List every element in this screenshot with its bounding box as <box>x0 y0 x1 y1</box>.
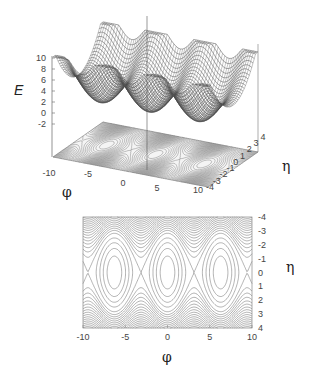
contour-plot: -10-50510 -4-3-2-101234 φ η <box>76 212 294 365</box>
eta-tick-label: 0 <box>233 157 238 167</box>
contour-eta-tick-label: 0 <box>258 268 263 278</box>
contour-eta-tick-label: -3 <box>258 226 266 236</box>
contour-eta-label: η <box>286 259 294 275</box>
phi-tick-label: 10 <box>193 185 203 195</box>
z-tick-label: 10 <box>36 53 46 63</box>
contour-phi-tick-label: -10 <box>76 332 89 342</box>
phi-tick-label: -5 <box>84 169 92 179</box>
z-tick-label: 6 <box>41 75 46 85</box>
contour-eta-tick-label: -4 <box>258 212 266 222</box>
contour-eta-ticks: -4-3-2-101234 <box>258 212 266 333</box>
contour-phi-tick-label: 5 <box>207 332 212 342</box>
contour-phi-tick-label: -5 <box>121 332 129 342</box>
contour-eta-tick-label: -1 <box>258 254 266 264</box>
contour-eta-tick-label: 1 <box>258 281 263 291</box>
contour-eta-tick-label: 2 <box>258 295 263 305</box>
surface-phi-label: φ <box>62 184 72 200</box>
z-tick-label: 4 <box>41 86 46 96</box>
figure: 1086420-2 -10-50510 -4-3-2-101234 E φ η … <box>0 0 309 368</box>
contour-phi-ticks: -10-50510 <box>76 325 257 342</box>
z-tick-label: 2 <box>41 97 46 107</box>
surface-z-label: E <box>14 82 24 98</box>
phi-tick-label: -10 <box>42 168 55 178</box>
z-tick-label: 0 <box>41 108 46 118</box>
z-axis: 1086420-2 <box>36 53 55 157</box>
phi-tick-label: 0 <box>120 178 125 188</box>
eta-tick-label: 4 <box>260 132 265 142</box>
contour-phi-tick-label: 10 <box>247 332 257 342</box>
eta-tick-label: 1 <box>240 151 245 161</box>
surface-plot: 1086420-2 -10-50510 -4-3-2-101234 E φ η <box>14 16 290 200</box>
contour-eta-tick-label: 3 <box>258 309 263 319</box>
eta-tick-label: 2 <box>247 144 252 154</box>
contour-phi-label: φ <box>162 349 172 365</box>
contour-eta-tick-label: -2 <box>258 240 266 250</box>
phi-tick-label: 5 <box>154 183 159 193</box>
contour-phi-tick-label: 0 <box>165 332 170 342</box>
eta-tick-label: 3 <box>254 138 259 148</box>
contour-lines <box>83 217 252 328</box>
z-tick-label: -2 <box>38 119 46 129</box>
contour-frame <box>83 217 252 328</box>
contour-eta-tick-label: 4 <box>258 323 263 333</box>
surface-eta-label: η <box>282 158 290 174</box>
z-tick-label: 8 <box>41 64 46 74</box>
